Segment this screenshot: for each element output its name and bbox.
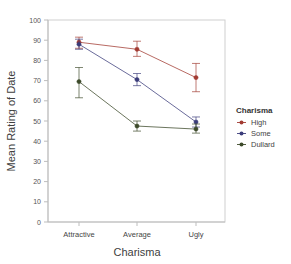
plot-background <box>0 0 291 264</box>
x-tick-label: Attractive <box>63 230 94 239</box>
data-point <box>194 127 198 131</box>
y-tick-label: 10 <box>33 198 41 205</box>
y-tick-label: 20 <box>33 178 41 185</box>
legend-item-label: Some <box>251 129 271 138</box>
y-tick-label: 0 <box>37 219 41 226</box>
y-axis-title: Mean Rating of Date <box>5 71 17 172</box>
data-point <box>135 77 139 81</box>
legend-title: Charisma <box>236 106 273 115</box>
legend-item-label: High <box>251 118 266 127</box>
y-tick-label: 100 <box>29 17 41 24</box>
y-tick-label: 90 <box>33 37 41 44</box>
data-point <box>135 124 139 128</box>
data-point <box>194 120 198 124</box>
y-tick-label: 40 <box>33 138 41 145</box>
legend-marker-icon <box>240 132 244 136</box>
legend-marker-icon <box>240 143 244 147</box>
x-tick-label: Ugly <box>188 230 203 239</box>
data-point <box>77 42 81 46</box>
chart-container: 0102030405060708090100 AttractiveAverage… <box>0 0 291 264</box>
legend-marker-icon <box>240 121 244 125</box>
x-tick-label: Average <box>123 230 151 239</box>
y-tick-label: 60 <box>33 97 41 104</box>
scatter-line-plot: 0102030405060708090100 AttractiveAverage… <box>0 0 291 264</box>
y-tick-label: 50 <box>33 118 41 125</box>
data-point <box>194 75 198 79</box>
data-point <box>77 80 81 84</box>
data-point <box>135 47 139 51</box>
y-tick-label: 30 <box>33 158 41 165</box>
y-tick-label: 80 <box>33 57 41 64</box>
legend-item-label: Dullard <box>251 140 275 149</box>
y-tick-label: 70 <box>33 77 41 84</box>
x-axis-title: Charisma <box>113 246 161 258</box>
